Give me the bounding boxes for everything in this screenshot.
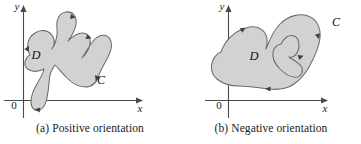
x-axis-label-a: x (137, 102, 143, 114)
caption-a: (a) Positive orientation (0, 122, 180, 134)
y-axis-label-b: y (219, 0, 225, 12)
origin-label-a: 0 (11, 99, 17, 111)
curve-label-a: C (97, 73, 106, 87)
y-axis-arrowhead-a (20, 5, 26, 12)
panel-negative-orientation: D C 0 x y (b) Negative orientation (181, 0, 361, 144)
y-axis-arrowhead-b (225, 5, 231, 12)
region-label-a: D (30, 48, 40, 62)
panel-positive-orientation: D C 0 x y (a) Positive orientation (0, 0, 180, 144)
y-axis-label-a: y (14, 0, 20, 12)
greens-theorem-orientation-figure: D C 0 x y (a) Positive orientation (0, 0, 361, 144)
origin-label-b: 0 (216, 99, 222, 111)
caption-b: (b) Negative orientation (181, 122, 361, 134)
region-label-b: D (248, 49, 258, 63)
curve-label-b: C (332, 15, 341, 29)
plot-b: D C 0 x y (181, 0, 361, 124)
plot-a: D C 0 x y (0, 0, 180, 124)
x-axis-label-b: x (322, 102, 328, 114)
region-d-shape-b (211, 15, 320, 89)
